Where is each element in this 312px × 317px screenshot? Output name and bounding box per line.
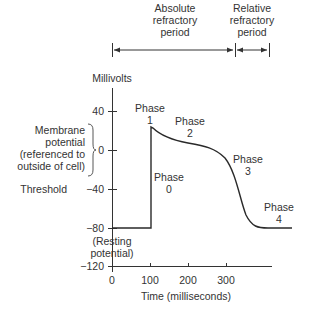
x-tick-200: 200 xyxy=(179,274,197,286)
x-tick-100: 100 xyxy=(141,274,159,286)
membrane-potential-annotation: Membrane potential (referenced to outsid… xyxy=(17,124,96,176)
absolute-period-label-2: refractory xyxy=(153,14,198,26)
phase-4-label: Phase xyxy=(264,201,294,213)
relative-period-label-3: period xyxy=(237,26,266,38)
phase-4-number: 4 xyxy=(276,213,282,225)
threshold-label: Threshold xyxy=(20,183,67,195)
y-tick-minus40: −40 xyxy=(86,183,104,195)
phase-3-label: Phase xyxy=(233,153,263,165)
x-tick-0: 0 xyxy=(109,274,115,286)
relative-period-label-2: refractory xyxy=(230,14,275,26)
phase-1-label: Phase xyxy=(135,102,165,114)
y-tick-minus120: −120 xyxy=(80,260,104,272)
phase-3-number: 3 xyxy=(245,165,251,177)
membrane-label-2: potential xyxy=(45,136,85,148)
x-axis-title: Time (milliseconds) xyxy=(141,290,231,302)
absolute-period-label-1: Absolute xyxy=(155,2,196,14)
phase-2-number: 2 xyxy=(187,127,193,139)
y-tick-0: 0 xyxy=(98,144,104,156)
y-tick-40: 40 xyxy=(92,105,104,117)
membrane-label-4: outside of cell) xyxy=(17,160,85,172)
brace-icon xyxy=(88,124,96,176)
period-arrows xyxy=(113,43,270,57)
membrane-label-3: (referenced to xyxy=(20,148,86,160)
resting-label-2: potential) xyxy=(90,247,133,259)
relative-period-label-1: Relative xyxy=(233,2,271,14)
phase-0-label: Phase xyxy=(154,171,184,183)
y-axis-title: Millivolts xyxy=(92,72,132,84)
x-tick-300: 300 xyxy=(217,274,235,286)
refractory-period-header: Absolute refractory period Relative refr… xyxy=(113,2,275,57)
absolute-period-label-3: period xyxy=(160,26,189,38)
action-potential-diagram: Absolute refractory period Relative refr… xyxy=(0,0,312,317)
y-tick-minus80: −80 xyxy=(86,222,104,234)
phase-0-number: 0 xyxy=(166,183,172,195)
phase-2-label: Phase xyxy=(175,115,205,127)
phase-1-number: 1 xyxy=(147,114,153,126)
membrane-label-1: Membrane xyxy=(35,124,85,136)
resting-label-1: (Resting xyxy=(92,235,131,247)
